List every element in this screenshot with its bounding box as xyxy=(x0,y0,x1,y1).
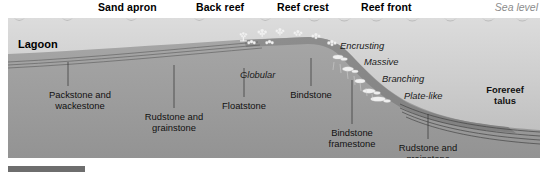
top-label-reef-front: Reef front xyxy=(361,1,412,13)
growth-form-massive: Massive xyxy=(364,56,434,67)
growth-form-encrusting: Encrusting xyxy=(340,40,414,51)
cross-section-panel: Lagoon Encrusting Massive Branching Plat… xyxy=(8,18,540,158)
cross-section-graphic xyxy=(8,18,540,158)
facies-label-rudstone-grainstone-forereef: Rudstone and grainstone xyxy=(380,142,476,158)
growth-form-globular: Globular xyxy=(240,69,304,80)
growth-form-branching: Branching xyxy=(382,73,456,84)
facies-label-floatstone: Floatstone xyxy=(204,100,284,111)
top-label-reef-crest: Reef crest xyxy=(277,1,329,13)
facies-label-rudstone-grainstone-apron: Rudstone and grainstone xyxy=(126,111,222,133)
facies-label-bindstone: Bindstone xyxy=(273,89,349,100)
forereef-talus-label: Forereef talus xyxy=(466,84,540,106)
top-label-sand-apron: Sand apron xyxy=(98,1,157,13)
top-label-back-reef: Back reef xyxy=(196,1,244,13)
lagoon-label: Lagoon xyxy=(18,38,58,50)
facies-label-packstone-wackestone: Packstone and wackestone xyxy=(30,89,130,111)
sea-level-label: Sea level xyxy=(495,1,538,13)
scale-bar xyxy=(8,166,85,172)
